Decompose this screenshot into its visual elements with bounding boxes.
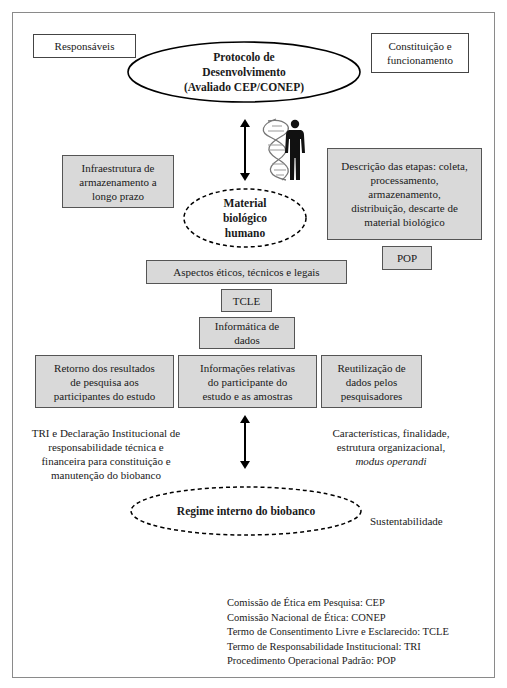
legend-item: Comissão de Ética em Pesquisa: CEP — [227, 596, 449, 611]
pop-box: POP — [382, 246, 432, 270]
responsaveis-box: Responsáveis — [33, 34, 136, 58]
tri-declaration-label: TRI e Declaração Institucional de respon… — [32, 427, 180, 481]
participant-info-box: Informações relativas do participante do… — [178, 355, 317, 408]
characteristics-line-2: estrutura organizacional, — [316, 440, 466, 454]
characteristics-line-1: Características, finalidade, — [316, 426, 466, 440]
regime-ellipse-label: Regime interno do biobanco — [140, 500, 352, 522]
data-reuse-box: Reutilização de dados pelos pesquisadore… — [321, 355, 422, 408]
informatics-label: Informática de dados — [214, 319, 280, 347]
material-line-2: biológico — [223, 211, 267, 226]
tcle-box: TCLE — [221, 289, 272, 312]
material-line-3: humano — [225, 226, 265, 241]
legend-item: Comissão Nacional de Ética: CONEP — [227, 611, 449, 626]
sustainability-label: Sustentabilidade — [370, 514, 450, 528]
dna-helix-icon — [263, 119, 288, 180]
aspects-box: Aspectos éticos, técnicos e legais — [146, 260, 347, 284]
infrastructure-label: Infraestrutura de armazenamento a longo … — [73, 161, 163, 203]
infrastructure-box: Infraestrutura de armazenamento a longo … — [62, 155, 174, 208]
constituicao-box: Constituição e funcionamento — [371, 33, 469, 73]
protocol-line-1: Protocolo de — [213, 50, 274, 65]
protocol-ellipse-label: Protocolo de Desenvolvimento (Avaliado C… — [140, 44, 348, 100]
results-return-box: Retorno dos resultados de pesquisa aos p… — [35, 355, 174, 408]
responsaveis-label: Responsáveis — [55, 39, 115, 53]
steps-description-label: Descrição das etapas: coleta, processame… — [340, 159, 469, 229]
material-ellipse-label: Material biológico humano — [190, 195, 300, 241]
data-reuse-label: Reutilização de dados pelos pesquisadore… — [336, 361, 407, 403]
legend-item: Termo de Consentimento Livre e Esclareci… — [227, 625, 449, 640]
results-return-label: Retorno dos resultados de pesquisa aos p… — [48, 361, 161, 403]
protocol-line-2: Desenvolvimento — [202, 65, 286, 80]
aspects-label: Aspectos éticos, técnicos e legais — [173, 265, 319, 279]
legend-item: Procedimento Operacional Padrão: POP — [227, 654, 449, 669]
sustainability-text: Sustentabilidade — [370, 515, 443, 527]
material-line-1: Material — [224, 196, 267, 211]
constituicao-label: Constituição e funcionamento — [376, 39, 464, 67]
regime-label: Regime interno do biobanco — [177, 504, 315, 519]
tri-declaration-text: TRI e Declaração Institucional de respon… — [28, 426, 184, 482]
characteristics-line-3: modus operandi — [316, 454, 466, 468]
pop-label: POP — [397, 251, 417, 265]
abbreviations-legend: Comissão de Ética em Pesquisa: CEP Comis… — [227, 596, 449, 669]
steps-description-box: Descrição das etapas: coleta, processame… — [327, 148, 482, 240]
participant-info-label: Informações relativas do participante do… — [195, 361, 300, 403]
characteristics-text: Características, finalidade, estrutura o… — [316, 426, 466, 468]
tcle-label: TCLE — [233, 294, 261, 308]
informatics-box: Informática de dados — [199, 317, 295, 349]
legend-item: Termo de Responsabilidade Institucional:… — [227, 640, 449, 655]
protocol-line-3: (Avaliado CEP/CONEP) — [184, 80, 304, 95]
